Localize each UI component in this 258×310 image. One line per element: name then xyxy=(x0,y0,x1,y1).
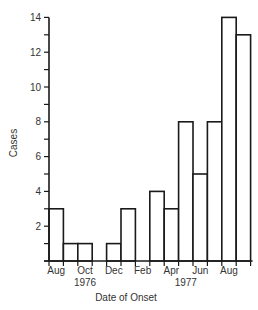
x-tick-label: Aug xyxy=(220,265,238,276)
histogram-chart: 2468101214 AugOctDecFebAprJunAug19761977… xyxy=(0,0,258,310)
bar-jun-1977 xyxy=(193,174,207,261)
y-axis-title: Cases xyxy=(8,129,19,157)
x-tick-label: Apr xyxy=(164,265,180,276)
x-axis: AugOctDecFebAprJunAug19761977 xyxy=(44,261,253,288)
y-axis: 2468101214 xyxy=(30,12,49,261)
bar-aug-1977 xyxy=(222,17,236,261)
bar-sep-1977 xyxy=(236,35,250,261)
x-tick-label: Dec xyxy=(105,265,123,276)
x-tick-label: Jun xyxy=(192,265,208,276)
x-tick-label: Oct xyxy=(77,265,93,276)
y-tick-label: 12 xyxy=(30,47,42,58)
bars xyxy=(49,17,251,261)
y-tick-label: 4 xyxy=(35,186,41,197)
year-label: 1976 xyxy=(74,277,97,288)
x-tick-label: Aug xyxy=(47,265,65,276)
y-tick-label: 14 xyxy=(30,12,42,23)
bar-oct-1976 xyxy=(78,244,92,261)
x-tick-label: Feb xyxy=(134,265,152,276)
bar-jan-1977 xyxy=(121,209,135,261)
y-tick-label: 10 xyxy=(30,82,42,93)
year-label: 1977 xyxy=(175,277,198,288)
y-tick-label: 2 xyxy=(35,221,41,232)
bar-sep-1976 xyxy=(63,244,77,261)
bar-may-1977 xyxy=(179,122,193,261)
y-tick-label: 8 xyxy=(35,116,41,127)
bar-jul-1977 xyxy=(207,122,221,261)
x-axis-title: Date of Onset xyxy=(95,292,157,303)
bar-aug-1976 xyxy=(49,209,63,261)
bar-dec-1976 xyxy=(107,244,121,261)
y-tick-label: 6 xyxy=(35,151,41,162)
bar-apr-1977 xyxy=(164,209,178,261)
bar-mar-1977 xyxy=(150,191,164,261)
